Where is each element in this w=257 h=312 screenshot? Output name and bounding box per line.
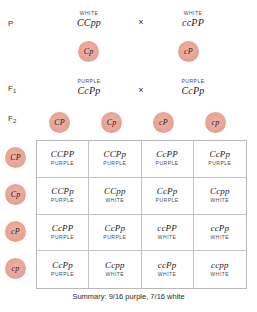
punnett-cell: CCPpPURPLE	[37, 178, 89, 215]
gamete-circle-top-2: cP	[153, 112, 174, 133]
punnett-cell: ccppWHITE	[194, 251, 246, 288]
punnett-cell-phenotype: WHITE	[106, 197, 125, 204]
parent-right-phenotype: WHITE	[156, 10, 230, 17]
punnett-cell-genotype: ccPp	[158, 260, 177, 271]
generation-label-p: P	[8, 19, 14, 28]
punnett-cell-phenotype: PURPLE	[51, 271, 74, 278]
punnett-cell-phenotype: PURPLE	[103, 234, 126, 241]
punnett-cell: CcPpPURPLE	[89, 215, 141, 252]
punnett-cell: CcppWHITE	[194, 178, 246, 215]
f1-left-genotype: CcPp	[52, 85, 126, 97]
punnett-cell: CcPPPURPLE	[142, 141, 194, 178]
f1-left-phenotype: PURPLE	[52, 78, 126, 85]
gamete-circle-side-3: cp	[5, 258, 26, 279]
gamete-circle-top-3: cp	[205, 112, 226, 133]
summary-text: Summary: 9/16 purple, 7/16 white	[0, 292, 257, 301]
punnett-cell-genotype: CcPp	[104, 223, 125, 234]
generation-label-f1: F1	[8, 84, 17, 93]
punnett-cell: CcPpPURPLE	[37, 251, 89, 288]
f1-right: PURPLE CcPp	[156, 78, 230, 97]
f1-right-phenotype: PURPLE	[156, 78, 230, 85]
punnett-cell: ccPPWHITE	[142, 215, 194, 252]
punnett-cell-genotype: CCPp	[103, 149, 126, 160]
punnett-cell: CcPPPURPLE	[37, 215, 89, 252]
punnett-cell-phenotype: WHITE	[211, 197, 230, 204]
parent-right-genotype: ccPP	[156, 17, 230, 29]
punnett-cell-genotype: CCpp	[104, 186, 126, 197]
gamete-circle-side-0: CP	[5, 147, 26, 168]
parent-left: WHITE CCpp	[52, 10, 126, 29]
parent-left-phenotype: WHITE	[52, 10, 126, 17]
f1-right-genotype: CcPp	[156, 85, 230, 97]
gamete-circle-top-1: Cp	[101, 112, 122, 133]
punnett-cell-genotype: ccPP	[157, 223, 177, 234]
gamete-circle-top-0: CP	[49, 112, 70, 133]
punnett-cell-phenotype: PURPLE	[51, 197, 74, 204]
f1-cross-row: PURPLE CcPp × PURPLE CcPp	[36, 78, 246, 97]
f2-subscript: 2	[13, 118, 17, 124]
punnett-cell-phenotype: PURPLE	[51, 160, 74, 167]
gamete-circle-side-1: Cp	[5, 184, 26, 205]
punnett-cell-phenotype: PURPLE	[156, 160, 179, 167]
generation-label-f2: F2	[8, 114, 17, 123]
punnett-cell: CCPpPURPLE	[89, 141, 141, 178]
punnett-cell: ccPpWHITE	[194, 215, 246, 252]
gamete-circle-side-2: cP	[5, 221, 26, 242]
punnett-cell-phenotype: PURPLE	[51, 234, 74, 241]
punnett-cell-genotype: CcPP	[52, 223, 74, 234]
gamete-circle-parental-left: Cp	[78, 41, 99, 62]
punnett-cell-genotype: CCPp	[51, 186, 74, 197]
f1-left: PURPLE CcPp	[52, 78, 126, 97]
punnett-cell: CCppWHITE	[89, 178, 141, 215]
punnett-cell-genotype: CcPP	[156, 149, 178, 160]
parental-cross-row: WHITE CCpp × WHITE ccPP	[36, 10, 246, 29]
punnett-cell: CcPpPURPLE	[194, 141, 246, 178]
f1-subscript: 1	[13, 88, 17, 94]
punnett-cell-genotype: CcPp	[157, 186, 178, 197]
punnett-cell-genotype: CCPP	[51, 149, 75, 160]
punnett-cell-phenotype: PURPLE	[208, 160, 231, 167]
punnett-cell-genotype: CcPp	[52, 260, 73, 271]
punnett-cell: CCPPPURPLE	[37, 141, 89, 178]
punnett-cell-phenotype: PURPLE	[156, 197, 179, 204]
punnett-cell-genotype: ccPp	[210, 223, 229, 234]
punnett-cell-genotype: Ccpp	[210, 186, 230, 197]
punnett-cell-genotype: ccpp	[211, 260, 229, 271]
punnett-cell-phenotype: WHITE	[211, 234, 230, 241]
punnett-cell: CcPpPURPLE	[142, 178, 194, 215]
punnett-cell-phenotype: WHITE	[158, 234, 177, 241]
punnett-cell-phenotype: WHITE	[158, 271, 177, 278]
punnett-cell-genotype: Ccpp	[105, 260, 125, 271]
punnett-cell-phenotype: WHITE	[211, 271, 230, 278]
cross-symbol-f1: ×	[126, 78, 156, 95]
punnett-square-grid: CCPPPURPLECCPpPURPLECcPPPURPLECcPpPURPLE…	[36, 140, 247, 289]
punnett-cell-phenotype: WHITE	[106, 271, 125, 278]
cross-symbol-parental: ×	[126, 10, 156, 27]
parent-right: WHITE ccPP	[156, 10, 230, 29]
parent-left-genotype: CCpp	[52, 17, 126, 29]
punnett-cell: ccPpWHITE	[142, 251, 194, 288]
punnett-cell: CcppWHITE	[89, 251, 141, 288]
punnett-cell-genotype: CcPp	[209, 149, 230, 160]
gamete-circle-parental-right: cP	[178, 41, 199, 62]
punnett-cell-phenotype: PURPLE	[103, 160, 126, 167]
